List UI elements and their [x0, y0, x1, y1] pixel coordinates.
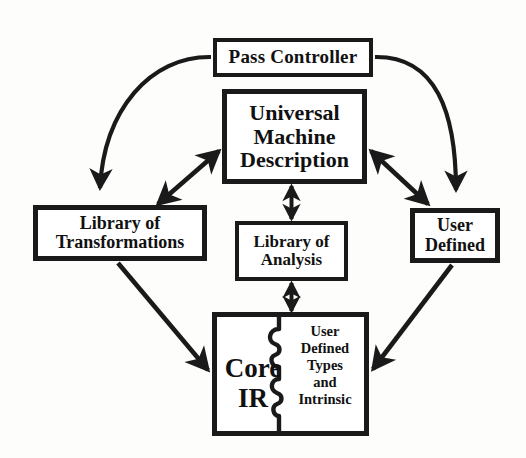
edge-library-of-transformations-to-core-ir: [118, 263, 208, 370]
edge-user-defined-to-core-ir: [373, 265, 452, 369]
edge-pass-controller-to-user-defined: [375, 57, 456, 190]
diagram-canvas: Pass Controller Universal Machine Descri…: [0, 0, 526, 458]
node-universal-machine-description-label: Universal Machine Description: [240, 101, 349, 172]
node-pass-controller[interactable]: Pass Controller: [213, 38, 373, 77]
node-core-ir-left-label: Core IR: [219, 353, 287, 413]
edge-pass-controller-to-library-of-transformations: [100, 57, 211, 188]
node-user-defined[interactable]: User Defined: [410, 208, 500, 263]
node-library-of-analysis[interactable]: Library of Analysis: [235, 221, 348, 281]
edge-umd-to-library-of-transformations: [158, 151, 219, 204]
node-library-of-transformations-label: Library of Transformations: [56, 214, 185, 253]
node-pass-controller-label: Pass Controller: [229, 47, 358, 68]
node-universal-machine-description[interactable]: Universal Machine Description: [222, 89, 367, 184]
edge-umd-to-user-defined: [371, 151, 428, 204]
node-library-of-analysis-label: Library of Analysis: [253, 233, 329, 270]
node-library-of-transformations[interactable]: Library of Transformations: [33, 205, 207, 261]
node-user-defined-label: User Defined: [425, 216, 485, 255]
node-core-ir-right-label: User Defined Types and Intrinsic: [287, 323, 363, 409]
core-ir-inner: Core IR User Defined Types and Intrinsic: [217, 317, 364, 431]
node-core-ir[interactable]: Core IR User Defined Types and Intrinsic: [212, 312, 369, 436]
